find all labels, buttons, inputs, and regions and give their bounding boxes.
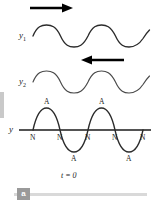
node-label-4: N — [112, 134, 117, 142]
wave-y2-label: y2 — [19, 77, 26, 88]
node-label-1: N — [30, 134, 35, 142]
node-label-3: N — [85, 134, 90, 142]
page-edge-marker — [0, 92, 4, 118]
panel-label-chip: a — [17, 188, 30, 200]
wave-y1-label: y1 — [19, 31, 26, 42]
axis-y-label: y — [9, 125, 13, 134]
wave-y2 — [33, 71, 150, 93]
time-caption: t = 0 — [61, 172, 77, 180]
wave-y1 — [33, 25, 150, 47]
antinode-label-4: A — [126, 155, 131, 163]
arrow-right-icon — [30, 4, 73, 13]
node-label-2: N — [57, 134, 62, 142]
panel-divider-bar — [14, 193, 147, 196]
antinode-label-1: A — [44, 98, 49, 106]
antinode-label-2: A — [99, 98, 104, 106]
antinode-label-3: A — [71, 155, 76, 163]
node-label-5: N — [140, 134, 145, 142]
arrow-left-icon — [81, 56, 124, 65]
